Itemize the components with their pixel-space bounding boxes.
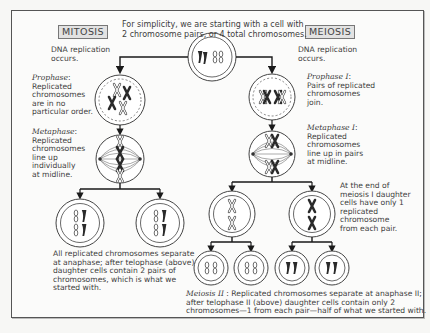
text-line: at midline. (307, 158, 363, 167)
mitosis-metaphase-text: Metaphase: Replicated chromosomes line u… (32, 128, 85, 180)
mitosis-label: MITOSIS (58, 25, 108, 39)
meiosis2-daughter-cell-2 (234, 251, 268, 285)
meiosis-metaphase1-text: Metaphase I: Replicated chromosomes line… (307, 124, 363, 167)
text-line: chromosomes—1 from each pair—half of wha… (186, 307, 426, 316)
mitosis-dna-replication: DNA replication occurs. (51, 46, 110, 63)
mitosis-daughter-cell-1 (56, 199, 104, 247)
meiosis2-daughter-cell-1 (194, 251, 228, 285)
meiosis2-text: Meiosis II : Replicated chromosomes sepa… (186, 290, 426, 316)
metaphase-term: Metaphase (32, 127, 75, 136)
meiosis2-term: Meiosis II (186, 289, 224, 298)
meiosis-metaphase1-cell (249, 131, 295, 177)
meiosis-prophase1-text: Prophase I: Pairs of replicated chromoso… (307, 73, 375, 107)
text-line: join. (307, 99, 375, 108)
mitosis-summary-text: All replicated chromosomes separate at a… (53, 250, 194, 293)
meiosis2-daughter-cell-3 (275, 251, 309, 285)
prophase1-term: Prophase I (307, 72, 348, 81)
mitosis-prophase-cell (95, 75, 145, 125)
meiosis2-daughter-cell-4 (315, 251, 349, 285)
mitosis-metaphase-cell (96, 135, 144, 183)
text-line: : Replicated chromosomes separate at ana… (226, 289, 421, 298)
intro-note-line: 2 chromosome pairs, or 4 total chromosom… (122, 30, 307, 40)
meiosis1-end-text: At the end of meiosis I daughter cells h… (340, 182, 411, 234)
text-line: from each pair. (340, 225, 411, 234)
meiosis1-daughter-cell-1 (209, 191, 255, 237)
meiosis-dna-replication: DNA replication occurs. (298, 46, 357, 63)
text-line: started with. (53, 284, 194, 293)
text-line: occurs. (298, 55, 357, 64)
meiosis-label: MEIOSIS (305, 25, 355, 39)
mitosis-daughter-cell-2 (136, 199, 184, 247)
meiosis-prophase1-cell (249, 74, 295, 120)
mitosis-prophase-text: Prophase: Replicated chromosomes are in … (32, 74, 93, 117)
text-line: particular order. (32, 108, 93, 117)
meiosis1-daughter-cell-2 (289, 191, 335, 237)
start-cell (188, 33, 236, 81)
text-line: at midline. (32, 171, 85, 180)
metaphase1-term: Metaphase I (307, 123, 355, 132)
intro-note-line: For simplicity, we are starting with a c… (122, 20, 307, 30)
intro-note: For simplicity, we are starting with a c… (122, 20, 307, 40)
prophase-term: Prophase (32, 73, 68, 82)
text-line: occurs. (51, 55, 110, 64)
